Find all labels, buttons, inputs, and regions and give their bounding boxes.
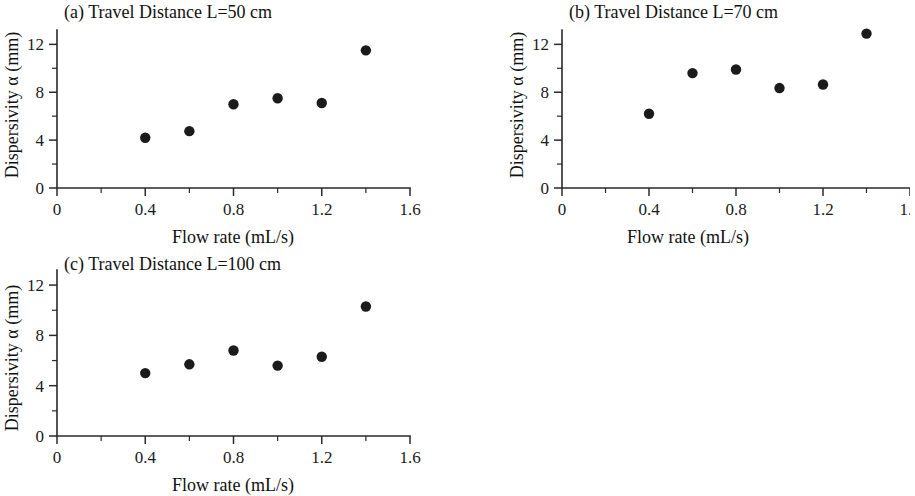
panel-a-plot: 00.40.81.21.604812 (a) Travel Distance L… (0, 0, 455, 248)
panel-b-yticklabel: 4 (541, 131, 550, 150)
panel-c-xlabel: Flow rate (mL/s) (172, 475, 294, 496)
panel-b-plot: 00.40.81.21.604812 (b) Travel Distance L… (455, 0, 910, 248)
data-point (687, 68, 697, 78)
data-point (731, 64, 741, 74)
panel-b-title: (b) Travel Distance L=70 cm (569, 2, 778, 23)
data-point (228, 345, 238, 355)
data-point (184, 126, 194, 136)
panel-b-xticklabel: 0.4 (638, 200, 660, 219)
panel-a-title: (a) Travel Distance L=50 cm (64, 2, 272, 23)
data-point (644, 109, 654, 119)
panel-a-yticklabel: 12 (27, 35, 44, 54)
panel-b-yticklabel: 0 (541, 179, 550, 198)
panel-a-datapoints (140, 45, 371, 143)
data-point (317, 98, 327, 108)
data-point (272, 93, 282, 103)
panel-b-ylabel: Dispersivity α (mm) (507, 32, 528, 178)
panel-c-yticklabel: 8 (36, 326, 45, 345)
data-point (228, 99, 238, 109)
panel-c-yticklabel: 4 (36, 377, 45, 396)
data-point (818, 79, 828, 89)
panel-a-xticklabel: 0 (53, 200, 62, 219)
panel-c-yticklabel: 0 (36, 427, 45, 446)
panel-a-xlabel: Flow rate (mL/s) (172, 227, 294, 248)
panel-b-xticklabel: 0 (558, 200, 567, 219)
panel-a-xticklabel: 1.2 (311, 200, 332, 219)
panel-a-yticklabel: 8 (36, 83, 45, 102)
panel-c-ticks (49, 285, 410, 444)
data-point (361, 45, 371, 55)
panel-a-ylabel: Dispersivity α (mm) (2, 32, 23, 178)
panel-b-xticklabel: 1.6 (899, 200, 910, 219)
panel-b-xticklabel: 1.2 (812, 200, 833, 219)
data-point (184, 359, 194, 369)
panel-b-yticklabel: 12 (532, 35, 549, 54)
data-point (774, 83, 784, 93)
data-point (140, 368, 150, 378)
panel-b-yticklabel: 8 (541, 83, 550, 102)
panel-a-xticklabel: 0.8 (223, 200, 244, 219)
panel-c-title: (c) Travel Distance L=100 cm (64, 254, 281, 275)
panel-b-xticklabel: 0.8 (725, 200, 746, 219)
panel-c-yticklabel: 12 (27, 276, 44, 295)
figure-container: 00.40.81.21.604812 (a) Travel Distance L… (0, 0, 915, 496)
panel-a-ticks (49, 44, 410, 196)
data-point (861, 28, 871, 38)
panel-b-xlabel: Flow rate (mL/s) (627, 227, 749, 248)
panel-a-ticklabels: 00.40.81.21.604812 (27, 35, 421, 219)
panel-b-ticklabels: 00.40.81.21.604812 (532, 35, 910, 219)
panel-a-xticklabel: 0.4 (135, 200, 157, 219)
panel-c-xticklabel: 0 (53, 448, 62, 467)
panel-c-ylabel: Dispersivity α (mm) (2, 285, 23, 431)
data-point (317, 352, 327, 362)
panel-b-axis-spine (562, 30, 910, 188)
panel-b: 00.40.81.21.604812 (b) Travel Distance L… (455, 0, 910, 248)
panel-a-xticklabel: 1.6 (399, 200, 420, 219)
data-point (361, 301, 371, 311)
panel-a-yticklabel: 4 (36, 131, 45, 150)
panel-c-xticklabel: 1.2 (311, 448, 332, 467)
data-point (140, 133, 150, 143)
panel-b-datapoints (644, 28, 872, 119)
panel-b-axes (562, 30, 910, 188)
panel-a: 00.40.81.21.604812 (a) Travel Distance L… (0, 0, 455, 248)
panel-c-xticklabel: 1.6 (399, 448, 420, 467)
panel-c-xticklabel: 0.4 (135, 448, 157, 467)
panel-c-plot: 00.40.81.21.604812 (c) Travel Distance L… (0, 248, 455, 496)
panel-c: 00.40.81.21.604812 (c) Travel Distance L… (0, 248, 455, 496)
panel-c-datapoints (140, 301, 371, 378)
panel-c-xticklabel: 0.8 (223, 448, 244, 467)
panel-a-yticklabel: 0 (36, 179, 45, 198)
data-point (272, 360, 282, 370)
